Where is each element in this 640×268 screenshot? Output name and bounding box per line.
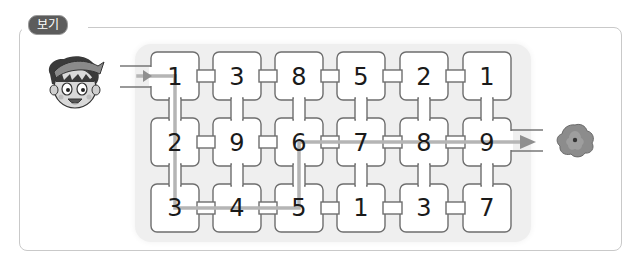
maze-cell-r1c4: 5: [341, 59, 381, 95]
maze-cell-r3c4: 1: [341, 190, 381, 226]
maze-cell-r2c2: 9: [217, 125, 257, 161]
maze-cell-r2c4: 7: [341, 125, 381, 161]
maze-cell-r1c3: 8: [279, 59, 319, 95]
maze-cell-r3c2: 4: [217, 190, 257, 226]
maze-cell-r1c5: 2: [404, 59, 444, 95]
maze-cell-r2c3: 6: [279, 125, 319, 161]
maze-cell-r2c1: 2: [155, 125, 195, 161]
maze-cell-r1c1: 1: [155, 59, 195, 95]
flower-icon: [554, 122, 596, 158]
maze-cell-r2c5: 8: [404, 125, 444, 161]
maze-cell-r3c6: 7: [467, 190, 507, 226]
maze-drawing: [0, 0, 640, 268]
exit-arrow-icon: [520, 135, 536, 149]
maze-cell-r1c2: 3: [217, 59, 257, 95]
maze-cell-r1c6: 1: [467, 59, 507, 95]
maze-cell-r2c6: 9: [467, 125, 507, 161]
maze-cell-r3c3: 5: [279, 190, 319, 226]
maze-cell-r3c5: 3: [404, 190, 444, 226]
maze-cell-r3c1: 3: [155, 190, 195, 226]
boy-character-icon: [44, 52, 106, 112]
